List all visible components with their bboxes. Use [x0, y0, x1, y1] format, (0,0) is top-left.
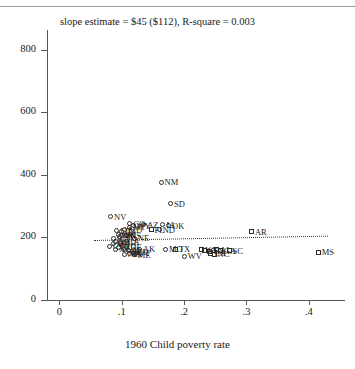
data-point-MO: [163, 247, 168, 252]
data-point-NH: [122, 252, 127, 257]
data-point-label-ND: ND: [163, 225, 175, 235]
data-point-SC: [227, 248, 232, 253]
data-point-MS: [316, 250, 321, 255]
data-point-label-NV: NV: [114, 212, 126, 222]
data-point-NM: [159, 180, 164, 185]
data-point-MA: [111, 241, 116, 246]
data-point-label-VA: VA: [205, 245, 216, 255]
data-point-label-NM: NM: [165, 177, 179, 187]
x-axis-label: 1960 Child poverty rate: [0, 338, 355, 350]
data-points-layer: NMSDNVAZOKIANDFLCOWYMTMDUTIDORWIKSMNNEWA…: [0, 0, 355, 369]
data-point-label-AR: AR: [255, 227, 267, 237]
data-point-AK: [137, 247, 142, 252]
data-point-SD: [168, 201, 173, 206]
data-point-AR: [249, 229, 254, 234]
data-point-WV: [182, 254, 187, 259]
data-point-label-AK: AK: [143, 244, 155, 254]
data-point-VA: [199, 247, 204, 252]
data-point-TX: [173, 247, 178, 252]
data-point-label-MS: MS: [322, 247, 334, 257]
data-point-label-SC: SC: [233, 246, 243, 256]
scatter-plot-figure: slope estimate = $45 ($112), R-square = …: [0, 0, 355, 369]
data-point-label-SD: SD: [174, 199, 185, 209]
data-point-label-FL: FL: [155, 225, 165, 235]
data-point-label-MA: MA: [117, 239, 131, 249]
data-point-NV: [108, 214, 113, 219]
data-point-label-WV: WV: [188, 251, 202, 261]
